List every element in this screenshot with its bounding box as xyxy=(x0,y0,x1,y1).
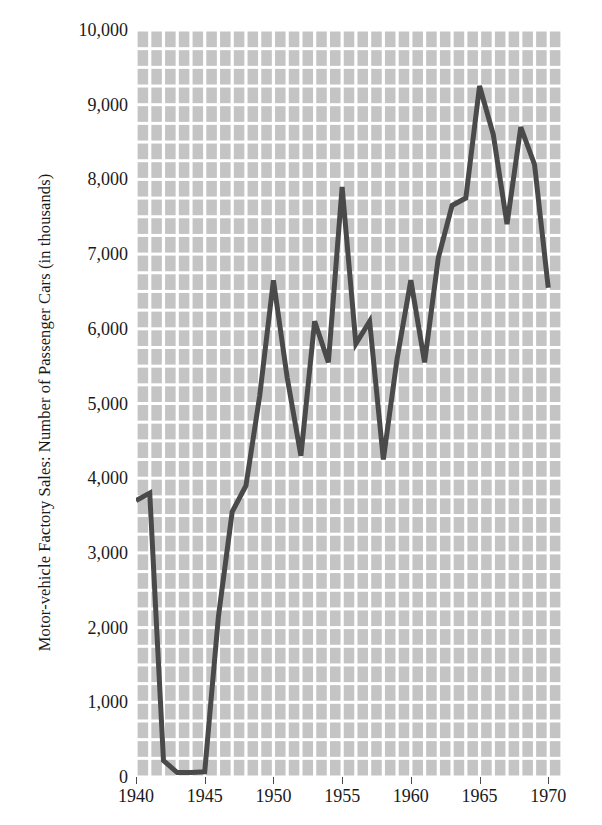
y-tick-label: 9,000 xyxy=(50,96,128,114)
y-tick-label: 10,000 xyxy=(50,21,128,39)
x-tick-label: 1960 xyxy=(393,786,429,807)
y-tick-label: 7,000 xyxy=(50,245,128,263)
x-tick-mark xyxy=(273,777,274,784)
x-tick-label: 1945 xyxy=(187,786,223,807)
x-tick-label: 1970 xyxy=(530,786,566,807)
chart-svg xyxy=(136,30,562,777)
y-tick-label: 0 xyxy=(50,768,128,786)
y-tick-label: 6,000 xyxy=(50,320,128,338)
x-tick-mark xyxy=(205,777,206,784)
y-tick-label: 4,000 xyxy=(50,469,128,487)
y-tick-label: 1,000 xyxy=(50,693,128,711)
chart-page: Motor-vehicle Factory Sales: Number of P… xyxy=(0,0,602,825)
x-tick-label: 1955 xyxy=(324,786,360,807)
x-tick-mark xyxy=(411,777,412,784)
x-tick-mark xyxy=(342,777,343,784)
x-tick-mark xyxy=(136,777,137,784)
gridlines xyxy=(136,30,562,777)
y-tick-label: 8,000 xyxy=(50,170,128,188)
x-tick-mark xyxy=(548,777,549,784)
y-tick-label: 5,000 xyxy=(50,395,128,413)
y-tick-label: 3,000 xyxy=(50,544,128,562)
y-tick-label: 2,000 xyxy=(50,619,128,637)
plot-area xyxy=(136,30,562,777)
x-tick-label: 1965 xyxy=(462,786,498,807)
x-tick-label: 1940 xyxy=(118,786,154,807)
y-axis-tick-labels: 10,0009,0008,0007,0006,0005,0004,0003,00… xyxy=(50,0,128,825)
x-tick-mark xyxy=(480,777,481,784)
x-axis: 1940194519501955196019651970 xyxy=(136,777,562,823)
x-tick-label: 1950 xyxy=(255,786,291,807)
